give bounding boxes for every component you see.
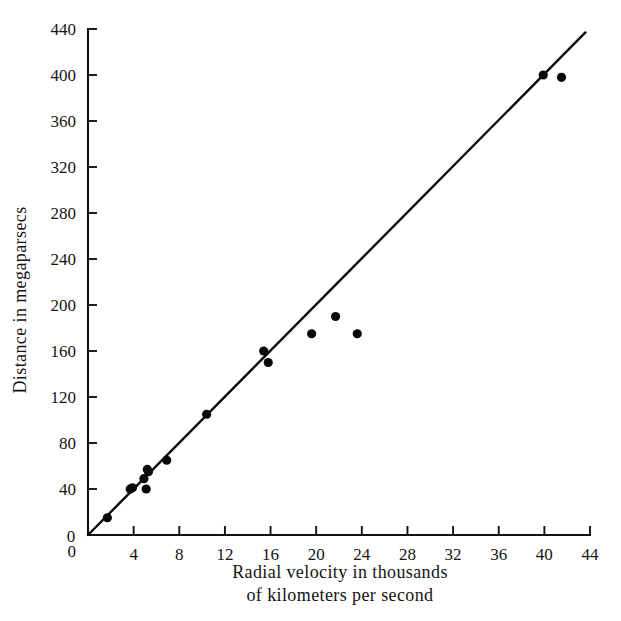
x-tick-label: 4 xyxy=(129,545,138,564)
y-tick-marks xyxy=(88,29,97,489)
data-point-marker xyxy=(557,73,566,82)
y-tick-label: 80 xyxy=(59,434,76,453)
data-point-marker xyxy=(128,483,137,492)
data-point-marker xyxy=(331,312,340,321)
data-point-marker xyxy=(353,329,362,338)
x-tick-label: 36 xyxy=(490,545,507,564)
y-tick-label: 360 xyxy=(51,112,77,131)
x-tick-label: 8 xyxy=(175,545,184,564)
y-tick-label: 240 xyxy=(51,250,77,269)
data-point-marker xyxy=(307,329,316,338)
data-point-marker xyxy=(144,467,153,476)
data-point-marker xyxy=(142,484,151,493)
y-tick-label: 40 xyxy=(59,480,76,499)
data-point-marker xyxy=(103,513,112,522)
x-axis-title-line2: of kilometers per second xyxy=(246,585,433,605)
y-tick-label: 200 xyxy=(51,296,77,315)
chart-figure: 048121620242832364044 040801201602002402… xyxy=(0,0,621,621)
x-tick-label: 40 xyxy=(536,545,553,564)
data-point-marker xyxy=(259,346,268,355)
y-tick-labels: 04080120160200240280320360400440 xyxy=(51,20,77,561)
x-tick-label: 12 xyxy=(216,545,233,564)
y-tick-label: 440 xyxy=(51,20,77,39)
x-tick-marks xyxy=(134,526,590,535)
y-tick-label: 400 xyxy=(51,66,77,85)
data-points xyxy=(103,70,566,522)
x-axis-title-line1: Radial velocity in thousands xyxy=(232,562,448,582)
y-tick-label: 160 xyxy=(51,342,77,361)
data-point-marker xyxy=(202,410,211,419)
y-tick-label: 0 xyxy=(68,542,77,561)
data-point-marker xyxy=(162,456,171,465)
x-tick-labels: 048121620242832364044 xyxy=(67,527,599,564)
y-tick-label: 120 xyxy=(51,388,77,407)
y-tick-label: 280 xyxy=(51,204,77,223)
scatter-plot-canvas: 048121620242832364044 040801201602002402… xyxy=(0,0,621,621)
y-axis-title: Distance in megaparsecs xyxy=(10,206,30,393)
data-point-marker xyxy=(264,358,273,367)
y-tick-label: 320 xyxy=(51,158,77,177)
x-tick-label: 44 xyxy=(582,545,600,564)
data-point-marker xyxy=(539,70,548,79)
